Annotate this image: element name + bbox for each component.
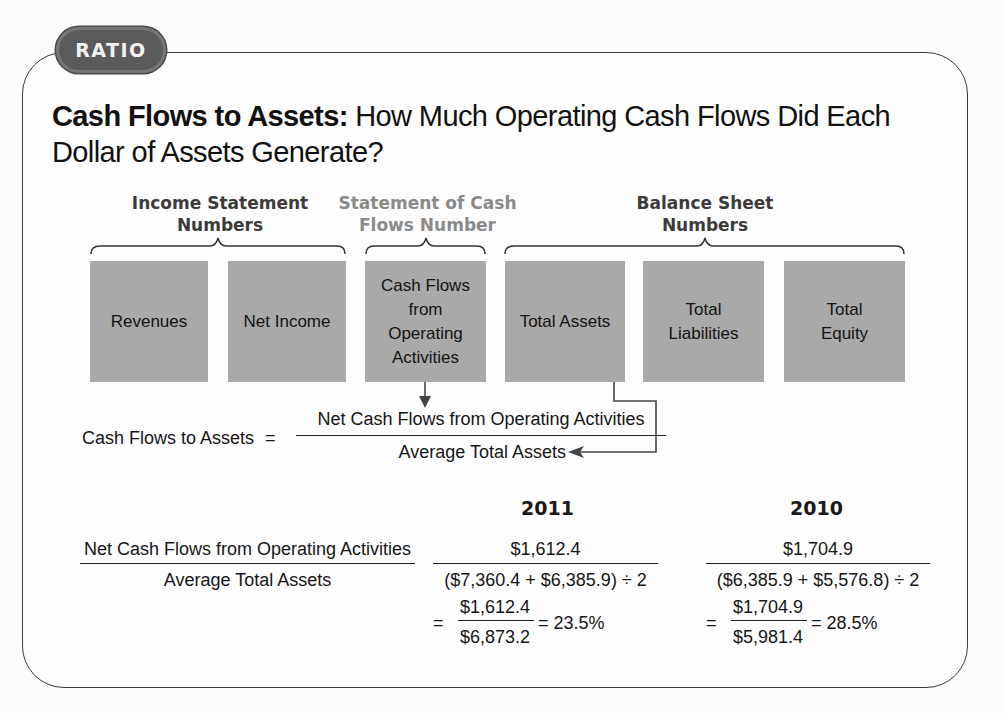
calc-2010-result-denominator: $5,981.4 — [728, 626, 808, 648]
box-label: Total Liabilities — [669, 298, 739, 346]
calc-2010-equals: = — [706, 612, 717, 634]
formula-denominator-text: Average Total Assets — [399, 442, 566, 462]
calc-2011-fraction-bar — [433, 563, 658, 564]
formula-numerator: Net Cash Flows from Operating Activities — [296, 408, 666, 430]
box-total-assets: Total Assets — [505, 261, 625, 382]
year-2010: 2010 — [790, 497, 843, 519]
box-label-line: Operating — [381, 322, 470, 346]
box-label: Net Income — [244, 310, 331, 334]
box-label-line: Activities — [381, 346, 470, 370]
formula-lhs-text: Cash Flows to Assets — [82, 428, 254, 448]
brace-income-statement — [91, 238, 345, 254]
brace-balance-sheet — [505, 238, 904, 254]
box-net-income: Net Income — [228, 261, 346, 382]
calc-label-numerator: Net Cash Flows from Operating Activities — [80, 538, 415, 560]
box-label: Total Assets — [520, 310, 611, 334]
box-cash-flows-operating: Cash Flows from Operating Activities — [365, 261, 486, 382]
calc-2011-denominator: ($7,360.4 + $6,385.9) ÷ 2 — [433, 569, 658, 591]
box-label-line: Equity — [821, 322, 868, 346]
calc-2010-result-numerator: $1,704.9 — [728, 596, 808, 618]
formula-lhs: Cash Flows to Assets = — [82, 427, 276, 449]
calc-2011-result-numerator: $1,612.4 — [455, 596, 535, 618]
calc-2011-result: = 23.5% — [538, 612, 605, 634]
box-label-line: Total — [669, 298, 739, 322]
calc-2010-fraction-bar — [706, 563, 930, 564]
calc-label-fraction-bar — [80, 563, 415, 564]
calc-label-denominator: Average Total Assets — [80, 569, 415, 591]
formula-fraction-bar — [296, 435, 666, 436]
calc-2011-equals: = — [433, 612, 444, 634]
box-revenues: Revenues — [90, 261, 208, 382]
brace-cash-flows — [366, 238, 485, 254]
calc-2011-numerator: $1,612.4 — [433, 538, 658, 560]
box-total-equity: Total Equity — [784, 261, 905, 382]
calc-2010-numerator: $1,704.9 — [706, 538, 930, 560]
box-label: Total Equity — [821, 298, 868, 346]
box-label-line: Liabilities — [669, 322, 739, 346]
calc-2011-result-fraction-bar — [458, 620, 534, 621]
box-label: Cash Flows from Operating Activities — [381, 274, 470, 370]
box-label-line: Total — [821, 298, 868, 322]
calc-2010-result-fraction-bar — [731, 620, 807, 621]
calc-2011-result-denominator: $6,873.2 — [455, 626, 535, 648]
box-label: Revenues — [111, 310, 188, 334]
box-label-line: Cash Flows — [381, 274, 470, 298]
formula-denominator: Average Total Assets — [296, 441, 566, 463]
calc-2010-denominator: ($6,385.9 + $5,576.8) ÷ 2 — [706, 569, 930, 591]
box-total-liabilities: Total Liabilities — [643, 261, 764, 382]
formula-equals: = — [265, 428, 276, 448]
year-2011: 2011 — [521, 497, 574, 519]
box-label-line: from — [381, 298, 470, 322]
arrow-down-icon — [419, 396, 431, 408]
calc-2010-result: = 28.5% — [811, 612, 878, 634]
